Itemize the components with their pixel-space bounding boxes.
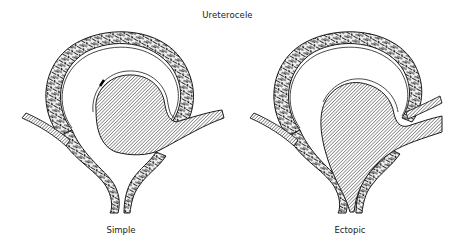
ureterocele-illustrations <box>0 0 455 248</box>
panel-label-simple: Simple <box>81 225 161 235</box>
bladder-neck-right <box>124 152 166 213</box>
ureterocele-simple <box>96 75 224 155</box>
simple-diagram <box>22 32 224 213</box>
panel-label-ectopic: Ectopic <box>310 225 390 235</box>
ectopic-diagram <box>250 32 442 213</box>
